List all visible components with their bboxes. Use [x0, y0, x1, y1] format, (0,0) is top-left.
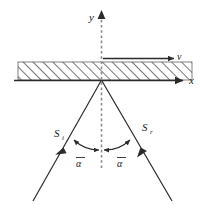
- y-axis-arrowhead: [98, 10, 106, 19]
- velocity-label: v: [177, 51, 182, 62]
- reflected-ray-subscript: r: [150, 128, 153, 136]
- incident-ray-arrowhead: [55, 148, 66, 155]
- hatched-medium-region: [18, 62, 192, 80]
- reflected-ray-label: S: [142, 121, 148, 133]
- angle-arc-right: [104, 140, 130, 150]
- figure-root: y x v S i S r α α: [0, 0, 206, 205]
- incident-ray-label: S: [54, 127, 60, 139]
- incident-ray-subscript: i: [62, 134, 64, 142]
- physics-diagram-svg: y x v S i S r α α: [0, 0, 206, 205]
- x-axis-label: x: [188, 74, 194, 86]
- angle-arc-left: [74, 140, 99, 150]
- reflected-ray-line: [102, 81, 172, 201]
- y-axis-label: y: [88, 11, 94, 23]
- alpha-bar-left: α: [76, 158, 82, 169]
- incident-ray-line: [33, 81, 101, 201]
- alpha-bar-right: α: [117, 158, 123, 169]
